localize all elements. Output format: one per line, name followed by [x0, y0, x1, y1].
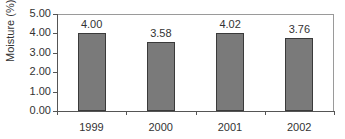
x-tick [196, 111, 197, 115]
y-tick-label: 3.00 [30, 47, 51, 58]
x-tick-label: 1999 [57, 121, 126, 133]
x-tick [57, 111, 58, 115]
bar-value-label: 3.58 [131, 27, 191, 39]
y-tick-label: 0.00 [30, 105, 51, 116]
x-tick [265, 111, 266, 115]
y-tick [53, 14, 57, 15]
y-tick [53, 72, 57, 73]
bar-value-label: 4.00 [62, 18, 122, 30]
bar-value-label: 4.02 [200, 18, 260, 30]
y-axis [57, 14, 58, 112]
bar-2002 [285, 38, 313, 111]
y-tick [53, 92, 57, 93]
y-tick-label: 4.00 [30, 27, 51, 38]
x-tick-label: 2000 [126, 121, 195, 133]
bar-2000 [147, 42, 175, 111]
y-tick-label: 1.00 [30, 86, 51, 97]
x-tick-label: 2001 [196, 121, 265, 133]
bar-2001 [216, 33, 244, 111]
bar-value-label: 3.76 [269, 23, 329, 35]
y-tick-label: 5.00 [30, 8, 51, 19]
y-tick [53, 33, 57, 34]
y-tick [53, 53, 57, 54]
y-axis-label: Moisture (%) [4, 0, 16, 62]
x-tick [126, 111, 127, 115]
x-tick [334, 111, 335, 115]
y-tick-label: 2.00 [30, 66, 51, 77]
x-tick-label: 2002 [265, 121, 334, 133]
moisture-bar-chart: Moisture (%) 0.001.002.003.004.005.00 4.… [0, 0, 345, 139]
bar-1999 [78, 33, 106, 111]
